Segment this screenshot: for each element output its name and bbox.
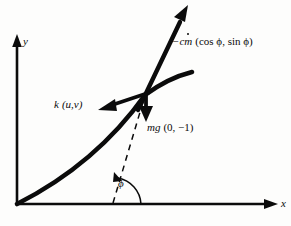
thrust-vector-label: −cm(cos ϕ, sin ϕ) bbox=[172, 36, 253, 47]
x-axis-label: x bbox=[281, 198, 286, 209]
drag-vector-label: k(u,v) bbox=[54, 99, 82, 110]
flight-path-curve bbox=[17, 72, 192, 204]
weight-coefficient-symbol: mg bbox=[147, 121, 160, 133]
x-axis bbox=[17, 199, 278, 209]
drag-coefficient-symbol: k bbox=[54, 98, 59, 110]
y-axis bbox=[12, 34, 22, 204]
weight-vector-label: mg(0, −1) bbox=[147, 122, 193, 133]
thrust-label-prefix: −c bbox=[172, 35, 184, 47]
weight-label-components: (0, −1) bbox=[163, 121, 193, 133]
mass-flow-rate-symbol: m bbox=[184, 36, 192, 47]
thrust-label-components: (cos ϕ, sin ϕ) bbox=[195, 35, 252, 47]
physics-diagram-figure: y x −cm(cos ϕ, sin ϕ) k(u,v) mg(0, −1) ϕ bbox=[0, 0, 291, 226]
drag-label-components: (u,v) bbox=[62, 98, 82, 110]
y-axis-label: y bbox=[23, 36, 28, 47]
phi-angle-label: ϕ bbox=[118, 178, 124, 189]
diagram-canvas bbox=[0, 0, 291, 226]
